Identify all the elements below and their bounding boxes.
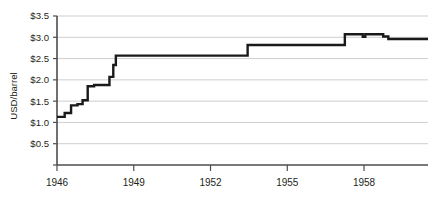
x-tick-label: 1958 xyxy=(353,177,376,188)
y-tick-label: $2.0 xyxy=(30,74,49,85)
x-tick-label: 1952 xyxy=(199,177,222,188)
x-tick-label: 1955 xyxy=(276,177,299,188)
x-tick-labels: 19461949195219551958 xyxy=(46,177,376,188)
y-tick-label: $3.5 xyxy=(30,10,49,21)
oil-price-chart: $0.5$1.0$1.5$2.0$2.5$3.0$3.5 19461949195… xyxy=(0,0,435,206)
chart-canvas: $0.5$1.0$1.5$2.0$2.5$3.0$3.5 19461949195… xyxy=(0,0,435,206)
x-axis xyxy=(57,165,428,171)
x-tick-label: 1946 xyxy=(46,177,69,188)
y-tick-label: $2.5 xyxy=(30,53,49,64)
x-tick-label: 1949 xyxy=(123,177,146,188)
y-tick-label: $1.5 xyxy=(30,96,49,107)
y-axis xyxy=(53,16,57,165)
y-tick-labels: $0.5$1.0$1.5$2.0$2.5$3.0$3.5 xyxy=(30,10,49,149)
y-axis-title: USD/barrel xyxy=(8,72,19,119)
price-series-line xyxy=(57,34,428,117)
y-tick-label: $0.5 xyxy=(30,138,49,149)
y-tick-label: $1.0 xyxy=(30,117,49,128)
x-tick-marks xyxy=(57,165,364,171)
y-tick-label: $3.0 xyxy=(30,32,49,43)
